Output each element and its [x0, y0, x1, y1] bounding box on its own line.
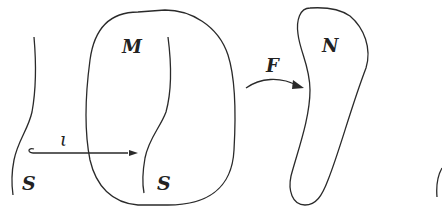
map-f-arrow-shaft — [246, 79, 298, 88]
label-f: F — [265, 55, 280, 76]
inclusion-arrowhead-icon — [129, 150, 138, 156]
submanifold-s-inner-curve — [143, 37, 170, 193]
label-n: N — [321, 35, 340, 56]
label-s-inner: S — [157, 172, 171, 194]
label-m: M — [121, 36, 143, 57]
map-f-arrowhead-icon — [292, 80, 304, 89]
label-iota: ι — [60, 129, 67, 150]
label-s-left: S — [22, 172, 36, 194]
inclusion-arrow-shaft — [29, 149, 128, 153]
partial-curve-right-edge — [437, 168, 442, 197]
diagram-canvas: S ι M S F N — [0, 0, 442, 207]
